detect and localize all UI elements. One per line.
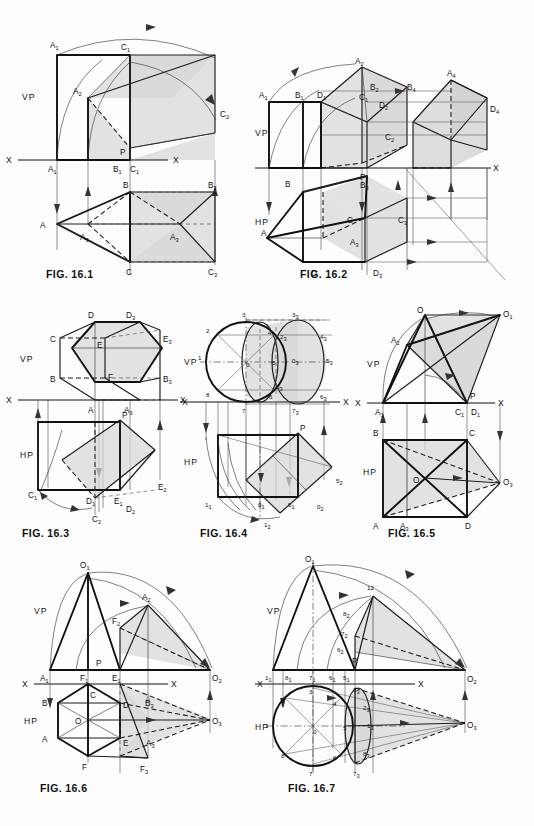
label-vp-1: VP	[22, 92, 35, 102]
label-b-f2: B	[285, 180, 291, 189]
label-d1-f2: D1	[317, 91, 326, 101]
label-f-f6: F	[82, 763, 87, 772]
figure-16-2: X A2 A4 A1 B1 D1 C1 B2 B4 D2 D4 C2 P B B…	[255, 40, 534, 290]
label-o3-f5: O3	[503, 478, 513, 488]
label-a-f2: A	[261, 229, 267, 238]
label-2-f4: 2	[206, 327, 210, 334]
label-f2-f6: F2	[112, 617, 120, 627]
label-b3: B3	[208, 181, 217, 191]
label-c-f3: C	[50, 335, 56, 344]
label-12-f4: 12	[264, 521, 271, 530]
label-0-f7: 0	[313, 728, 317, 735]
label-o1-f6: O1	[80, 561, 90, 571]
label-c2-f3: C2	[92, 515, 101, 525]
label-c2: C2	[220, 110, 229, 120]
label-f1-f6: F1	[80, 674, 88, 684]
label-e1-f6: E1	[112, 674, 121, 684]
label-vp-6: VP	[34, 606, 47, 616]
caption-fig-16-7: FIG. 16.7	[288, 782, 335, 794]
label-a2: A2	[73, 87, 82, 97]
label-o-hp-f5: O	[413, 476, 419, 485]
label-f3-f6: F3	[140, 765, 148, 775]
label-vp-2: VP	[255, 128, 268, 138]
label-a1-x: A1	[48, 165, 57, 175]
svg-text:X: X	[493, 163, 499, 173]
label-81-f7: 81	[285, 674, 292, 683]
label-33-f4: 33	[292, 311, 299, 320]
label-a-f5: A	[373, 522, 379, 531]
label-d-f3: D	[88, 311, 94, 320]
label-73-f4: 73	[292, 407, 299, 416]
label-2-f7: 2	[281, 700, 285, 707]
label-hp-6: HP	[24, 716, 38, 726]
label-vp-4: VP	[184, 357, 197, 367]
label-hp-7: HP	[255, 722, 269, 732]
label-a1-f5: A1	[375, 408, 384, 418]
label-8-f7: 8	[281, 752, 285, 759]
label-d-f6: D	[123, 701, 129, 710]
label-a4: A4	[447, 69, 456, 79]
label-a2-f2: A2	[355, 57, 364, 67]
label-6-f4: 6	[269, 393, 273, 400]
label-61-f7: 61	[329, 674, 336, 683]
label-d-f5: D	[465, 522, 471, 531]
figure-16-6: X X O1 A2 F2 P A1 F1 E1 O2 C B D B3 O A …	[20, 548, 270, 783]
label-vp-5: VP	[367, 359, 380, 369]
label-c3: C3	[208, 268, 217, 278]
label-a2-f5: A2	[391, 336, 400, 346]
figure-16-7: X X O1 12 82 72 62 P 11 81 71 61 51 O2 3…	[255, 548, 534, 783]
label-o1-f7: O1	[305, 555, 315, 565]
svg-text:X: X	[22, 679, 28, 689]
drawing-page: X X A1 C1 A2 C2 P A1 B1 C1 B B3 A A3 A3 …	[0, 0, 534, 826]
label-hp-5: HP	[363, 467, 377, 477]
label-c-f2: C	[347, 216, 353, 225]
label-3-f7: 3	[309, 688, 313, 695]
label-c1-f3: C1	[28, 491, 37, 501]
label-hp-2: HP	[255, 217, 269, 227]
label-a1-f6: A1	[40, 674, 49, 684]
svg-text:X: X	[171, 679, 177, 689]
label-b1-f2: B1	[295, 91, 304, 101]
label-c1-x: C1	[130, 165, 139, 175]
label-d4: D4	[490, 105, 499, 115]
label-o1-f5: O1	[503, 310, 513, 320]
figure-16-1: X X A1 C1 A2 C2 P A1 B1 C1 B B3 A A3 A3 …	[0, 0, 270, 290]
figure-16-5: X X O O1 A2 P A1 C1 D1 B C O O3 A A3 D V…	[355, 305, 534, 530]
label-52-f4: 52	[336, 477, 343, 486]
label-62-f7: 62	[337, 646, 344, 655]
caption-fig-16-6: FIG. 16.6	[40, 782, 87, 794]
label-p-4: P	[300, 424, 306, 433]
svg-text:X: X	[418, 679, 424, 689]
label-d1-f5: D1	[471, 408, 480, 418]
label-a2-f6: A2	[142, 593, 151, 603]
label-a-hp: A	[40, 221, 46, 230]
label-e-f6: E	[123, 739, 129, 748]
label-51-f4: 51	[288, 501, 295, 510]
label-p-6: P	[96, 659, 102, 668]
label-63-f4: 63	[320, 393, 327, 402]
label-p-3: P	[122, 411, 128, 420]
label-p-1: P	[120, 148, 126, 157]
label-o2-f7: O2	[467, 675, 477, 685]
caption-fig-16-1: FIG. 16.1	[46, 268, 93, 280]
label-b1: B1	[113, 165, 122, 175]
label-b-f5: B	[373, 429, 379, 438]
label-o-f6: O	[75, 717, 81, 726]
figure-16-3: X X D D3 C E E3 B F B3 A A3 P C1 D1 E1 E…	[0, 300, 190, 525]
label-b-f6: B	[42, 699, 48, 708]
label-5-f7: 5	[343, 724, 347, 731]
label-o2-f6: O2	[212, 674, 222, 684]
label-d3-f3: D3	[126, 311, 135, 321]
label-b3-f3: B3	[163, 375, 172, 385]
label-4-f7: 4	[333, 700, 337, 707]
svg-text:X: X	[6, 395, 12, 405]
label-a1-vp: A1	[50, 41, 59, 51]
label-11-f4: 11	[205, 501, 212, 510]
label-3-f4: 3	[242, 311, 246, 318]
svg-text:X: X	[257, 679, 263, 689]
label-11-f7: 11	[265, 674, 272, 683]
svg-text:X: X	[498, 398, 504, 408]
svg-text:X: X	[182, 397, 188, 407]
label-73-f7: 73	[353, 770, 360, 779]
label-a3-left: A3	[80, 233, 89, 243]
